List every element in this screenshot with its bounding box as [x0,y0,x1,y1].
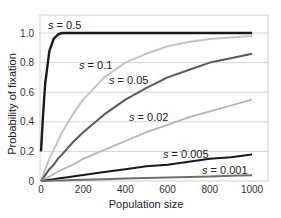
x-tick-label: 200 [75,184,92,195]
series-label: s = 0.001 [202,164,248,176]
y-axis-ticks: 00.20.40.60.81.0 [20,28,34,187]
x-tick-label: 600 [159,184,176,195]
y-tick-label: 0.6 [20,87,34,98]
y-tick-label: 0 [28,176,34,187]
x-tick-label: 400 [117,184,134,195]
series-label: s = 0.005 [163,148,209,160]
x-tick-label: 800 [201,184,218,195]
y-axis-label: Probability of fixation [6,53,18,155]
x-axis-label: Population size [109,198,184,210]
series-label: s = 0.5 [48,19,81,31]
y-tick-label: 1.0 [20,28,34,39]
series-label: s = 0.02 [129,111,168,123]
fixation-probability-chart: 00.20.40.60.81.0 02004006008001000 s = 0… [0,0,281,218]
y-tick-label: 0.2 [20,146,34,157]
x-tick-label: 0 [38,184,44,195]
y-tick-label: 0.4 [20,116,34,127]
x-axis-ticks: 02004006008001000 [38,184,263,195]
y-tick-label: 0.8 [20,57,34,68]
series-label: s = 0.05 [109,74,148,86]
x-tick-label: 1000 [241,184,264,195]
series-label: s = 0.1 [79,59,112,71]
